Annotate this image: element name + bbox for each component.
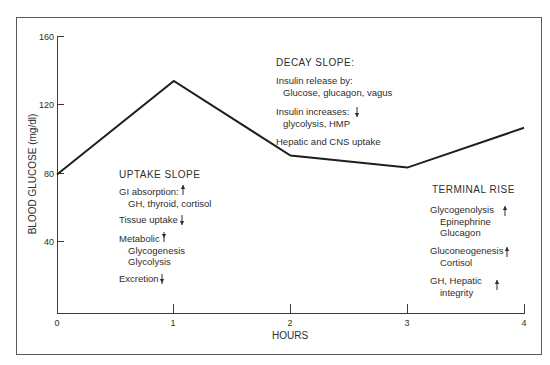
y-tick-40: 40 [44, 237, 54, 247]
x-tick-3: 3 [404, 318, 409, 328]
x-axis [57, 304, 525, 314]
arrow-down-icon [162, 232, 166, 242]
decay-line-3: Insulin increases: [276, 106, 349, 117]
arrow-down-icon [160, 274, 164, 284]
decay-slope-annotation: DECAY SLOPE: Insulin release by: Glucose… [276, 57, 393, 147]
terminal-line-7: integrity [440, 287, 474, 298]
uptake-line-1: GI absorption: [119, 186, 179, 197]
x-tick-4: 4 [521, 318, 526, 328]
terminal-rise-title: TERMINAL RISE [432, 184, 515, 195]
arrow-down-icon [180, 215, 184, 225]
arrow-down-icon [355, 107, 359, 117]
terminal-line-4: Gluconeogenesis [430, 245, 504, 256]
terminal-line-2: Epinephrine [440, 216, 491, 227]
terminal-line-3: Glucagon [440, 227, 481, 238]
arrow-up-icon [505, 247, 509, 257]
x-tick-0: 0 [54, 318, 59, 328]
arrow-up-icon [503, 206, 507, 216]
terminal-line-1: Glycogenolysis [430, 204, 494, 215]
x-axis-label: HOURS [272, 330, 308, 341]
decay-line-5: Hepatic and CNS uptake [276, 136, 381, 147]
uptake-line-6: Glycolysis [128, 256, 171, 267]
terminal-line-5: Cortisol [440, 257, 472, 268]
uptake-line-2: GH, thyroid, cortisol [128, 198, 211, 209]
x-tick-2: 2 [287, 318, 292, 328]
y-tick-120: 120 [39, 100, 54, 110]
y-tick-80: 80 [44, 169, 54, 179]
uptake-line-4: Metabolic [119, 233, 160, 244]
blood-glucose-chart: 160 120 80 40 0 1 2 3 4 HOURS BLOOD GLUC… [0, 0, 550, 365]
arrow-up-icon [495, 280, 499, 290]
y-tick-160: 160 [39, 32, 54, 42]
x-tick-1: 1 [170, 318, 175, 328]
decay-line-2: Glucose, glucagon, vagus [283, 87, 393, 98]
arrow-up-icon [181, 185, 185, 195]
uptake-slope-annotation: UPTAKE SLOPE GI absorption: GH, thyroid,… [119, 169, 211, 284]
terminal-rise-annotation: TERMINAL RISE Glycogenolysis Epinephrine… [430, 184, 515, 298]
decay-slope-title: DECAY SLOPE: [276, 57, 354, 68]
terminal-line-6: GH, Hepatic [430, 275, 482, 286]
decay-line-4: glycolysis, HMP [283, 118, 350, 129]
uptake-line-3: Tissue uptake [119, 214, 178, 225]
uptake-line-5: Glycogenesis [128, 245, 185, 256]
y-axis-label: BLOOD GLUCOSE (mg/dl) [27, 114, 38, 235]
decay-line-1: Insulin release by: [276, 75, 353, 86]
uptake-slope-title: UPTAKE SLOPE [119, 169, 200, 180]
uptake-line-7: Excretion [119, 273, 159, 284]
